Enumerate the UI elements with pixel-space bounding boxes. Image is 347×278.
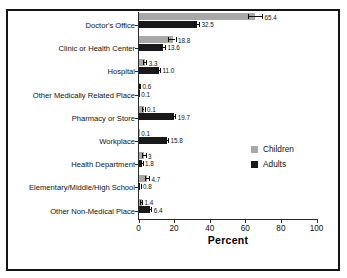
legend-swatch [251,161,258,168]
error-bar-cap [168,37,169,42]
y-axis-category-tick [135,118,138,119]
legend: ChildrenAdults [251,144,294,174]
x-axis-tick [281,220,282,223]
error-bar-cap [172,114,173,119]
error-bar-cap [165,138,166,143]
category-label: Other Non-Medical Place [50,207,135,216]
error-bar-cap [168,138,169,143]
y-axis-category-tick [135,211,138,212]
error-bar-cap [151,207,152,212]
bar-value-label: 13.6 [168,44,180,51]
category-label: Doctor's Office [86,21,135,30]
error-bar-cap [146,60,147,65]
x-axis-tick [317,220,318,223]
x-tick-label: 40 [198,224,222,233]
bar-value-label: 0.1 [147,106,156,113]
error-bar-cap [146,153,147,158]
category-label: Elementary/Middle/High School [29,183,135,192]
y-axis-category-tick [135,48,138,49]
error-bar-cap [194,22,195,27]
category-label: Workplace [99,137,135,146]
category-label: Health Department [71,160,135,169]
bar-value-label: 0.8 [143,183,152,190]
bar-value-label: 3 [148,153,152,160]
category-label: Other Medically Related Place [33,91,135,100]
x-axis-tick [174,220,175,223]
bar-value-label: 3.3 [149,60,158,67]
y-axis-category-tick [135,25,138,26]
category-label: Hospital [108,67,135,76]
bar-value-label: 11.0 [163,67,175,74]
legend-label: Adults [263,159,286,169]
chart-figure: Percent ChildrenAdults 020406080100Docto… [0,0,347,278]
bar-adults [139,113,174,120]
x-tick-label: 80 [269,224,293,233]
x-axis-tick [245,220,246,223]
x-tick-label: 60 [233,224,257,233]
error-bar-cap [262,14,263,19]
error-bar-cap [149,176,150,181]
bar-value-label: 18.8 [178,37,190,44]
error-bar-cap [199,22,200,27]
error-bar-line [248,16,262,17]
error-bar-cap [142,107,143,112]
legend-swatch [251,146,258,153]
y-axis-category-tick [135,141,138,142]
legend-entry: Children [251,144,294,154]
error-bar-cap [248,14,249,19]
bar-value-label: 0.1 [141,91,150,98]
error-bar-cap [145,176,146,181]
bar-value-label: 0.6 [143,83,152,90]
x-axis-title: Percent [138,234,318,246]
error-bar-cap [142,153,143,158]
x-axis-line [138,219,318,220]
error-bar-cap [149,207,150,212]
bar-value-label: 4.7 [152,176,161,183]
bar-value-label: 15.8 [171,137,183,144]
y-axis-category-tick [135,187,138,188]
x-axis-tick [210,220,211,223]
x-tick-label: 0 [127,224,151,233]
x-axis-tick [139,220,140,223]
error-bar-line [168,39,175,40]
category-label: Pharmacy or Store [72,114,135,123]
error-bar-cap [143,161,144,166]
error-bar-cap [176,37,177,42]
bar-value-label: 65.4 [264,14,276,21]
x-tick-label: 100 [305,224,329,233]
bar-value-label: 32.5 [202,21,214,28]
y-axis-category-tick [135,164,138,165]
bar-adults [139,21,197,28]
error-bar-cap [141,184,142,189]
legend-entry: Adults [251,159,294,169]
y-axis-category-tick [135,71,138,72]
error-bar-cap [142,200,143,205]
category-label: Clinic or Health Center [59,44,135,53]
error-bar-cap [156,68,157,73]
bar-value-label: 0.1 [141,130,150,137]
error-bar-cap [160,45,161,50]
bar-adults [139,137,167,144]
x-tick-label: 20 [162,224,186,233]
bar-value-label: 19.7 [178,114,190,121]
bar-children [139,13,255,20]
legend-label: Children [263,144,294,154]
error-bar-cap [143,60,144,65]
error-bar-cap [145,107,146,112]
y-axis-category-tick [135,95,138,96]
bar-value-label: 1.8 [145,160,154,167]
error-bar-cap [140,84,141,89]
bar-value-label: 6.4 [154,207,163,214]
error-bar-cap [175,114,176,119]
error-bar-cap [165,45,166,50]
error-bar-cap [160,68,161,73]
bar-value-label: 1.4 [144,199,153,206]
